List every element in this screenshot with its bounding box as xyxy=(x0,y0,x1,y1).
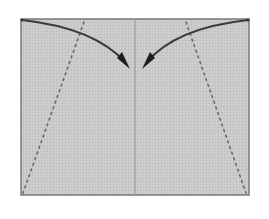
origami-diagram xyxy=(0,0,269,219)
left-corner-point xyxy=(20,18,23,21)
diagram-canvas xyxy=(0,0,269,219)
right-corner-point xyxy=(246,18,249,21)
